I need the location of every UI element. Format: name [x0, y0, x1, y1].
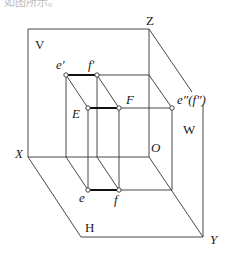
label-X: X — [14, 146, 24, 161]
proj-line — [97, 75, 119, 108]
h-plane-left-edge — [28, 157, 81, 237]
z-axis-diagonal — [149, 29, 192, 92]
point-F — [117, 106, 121, 110]
proj-line — [66, 157, 88, 190]
label-W: W — [183, 122, 196, 137]
caption-fragment: 如图所示。 — [4, 0, 59, 8]
point-e-prime — [64, 73, 68, 77]
label-E: E — [71, 106, 80, 121]
label-F: F — [125, 92, 135, 107]
projection-diagram: 如图所示。 V Z e′ f′ F E e″( — [0, 0, 231, 256]
point-e — [86, 188, 90, 192]
proj-line — [149, 75, 172, 108]
label-e-prime: e′ — [56, 57, 65, 72]
label-O: O — [151, 140, 161, 155]
label-V: V — [35, 37, 45, 52]
y-axis-diagonal — [149, 157, 203, 237]
label-Z: Z — [146, 13, 154, 28]
point-f-prime — [95, 73, 99, 77]
segment-ef — [66, 75, 119, 190]
point-E — [86, 106, 90, 110]
proj-line — [97, 157, 119, 190]
label-Y: Y — [210, 232, 219, 247]
label-e-dprime: e″(f″) — [177, 92, 206, 107]
label-H: H — [85, 220, 94, 235]
proj-line — [66, 75, 88, 108]
label-f-prime: f′ — [88, 57, 95, 72]
point-e-dprime — [170, 106, 174, 110]
label-f: f — [114, 192, 120, 207]
label-e: e — [79, 190, 85, 205]
